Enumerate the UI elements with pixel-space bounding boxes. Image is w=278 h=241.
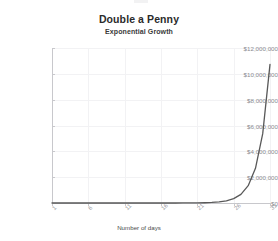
y-axis-tick-label: $2,000,000: [230, 174, 278, 181]
chart-title: Double a Penny: [0, 13, 278, 25]
y-axis-tick-mark: [52, 177, 55, 178]
y-axis-tick-label: $10,000,000: [230, 70, 278, 77]
gridline-vertical: [197, 48, 198, 203]
y-axis-tick-label: $12,000,000: [230, 45, 278, 52]
clipped-top-artifact: [134, 0, 148, 3]
x-axis-title: Number of days: [0, 224, 278, 231]
x-axis-tick-label: 6: [87, 205, 94, 212]
chart-container: Double a Penny Exponential Growth $12,00…: [0, 0, 278, 241]
y-axis-tick-mark: [52, 74, 55, 75]
y-axis-tick-mark: [52, 151, 55, 152]
gridline-vertical: [88, 48, 89, 203]
y-axis-tick-mark: [52, 100, 55, 101]
chart-subtitle: Exponential Growth: [0, 28, 278, 35]
y-axis-tick-mark: [52, 48, 55, 49]
y-axis-tick-mark: [52, 126, 55, 127]
gridline-vertical: [125, 48, 126, 203]
x-axis-tick-label: 1: [51, 205, 58, 212]
y-axis-tick-label: $4,000,000: [230, 148, 278, 155]
gridline-vertical: [161, 48, 162, 203]
y-axis-tick-label: $6,000,000: [230, 122, 278, 129]
y-axis-tick-label: $8,000,000: [230, 96, 278, 103]
